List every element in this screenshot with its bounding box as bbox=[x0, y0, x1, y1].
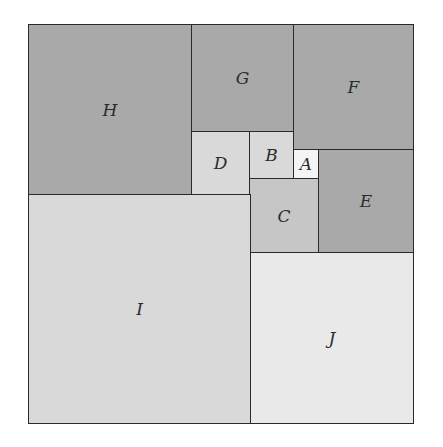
square-h: H bbox=[28, 24, 192, 195]
square-a-label: A bbox=[300, 154, 312, 174]
square-c-label: C bbox=[277, 206, 290, 226]
square-e: E bbox=[318, 149, 414, 253]
square-d: D bbox=[191, 131, 250, 195]
square-g: G bbox=[191, 24, 294, 132]
square-j: J bbox=[250, 252, 414, 424]
square-i-label: I bbox=[136, 299, 143, 319]
square-c: C bbox=[249, 178, 319, 253]
square-f-label: F bbox=[348, 77, 360, 97]
square-f: F bbox=[293, 24, 414, 150]
square-g-label: G bbox=[236, 68, 250, 88]
square-e-label: E bbox=[360, 191, 372, 211]
square-b-label: B bbox=[265, 145, 278, 165]
square-b: B bbox=[249, 131, 294, 179]
square-a: A bbox=[293, 149, 319, 179]
square-j-label: J bbox=[329, 328, 336, 348]
square-d-label: D bbox=[214, 153, 228, 173]
squared-rectangle: H G F D B A E C I J bbox=[28, 24, 414, 424]
square-h-label: H bbox=[103, 100, 118, 120]
square-i: I bbox=[28, 194, 251, 424]
